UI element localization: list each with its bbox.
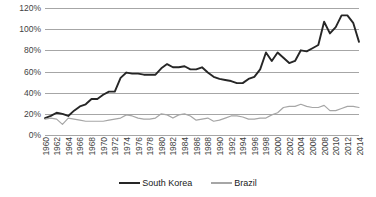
x-tick-label: 2008: [321, 137, 330, 156]
legend-label: South Korea: [142, 178, 192, 188]
x-tick-label: 2004: [297, 137, 306, 156]
legend-line-icon: [211, 182, 232, 184]
x-tick-label: 1960: [42, 137, 51, 156]
y-tick-label: 0%: [0, 131, 41, 140]
y-tick-label: 120%: [0, 4, 41, 13]
x-tick-label: 2014: [356, 137, 365, 156]
x-tick-label: 1976: [135, 137, 144, 156]
x-tick-label: 1992: [228, 137, 237, 156]
legend-label: Brazil: [234, 178, 257, 188]
x-tick-label: 1974: [123, 137, 132, 156]
x-tick-label: 1980: [158, 137, 167, 156]
series-line-brazil: [45, 104, 359, 124]
y-tick-label: 60%: [0, 67, 41, 76]
x-tick-label: 1972: [111, 137, 120, 156]
x-tick-label: 1998: [262, 137, 271, 156]
x-tick-label: 1964: [65, 137, 74, 156]
legend-item-south-korea[interactable]: South Korea: [119, 178, 192, 188]
series-line-south-korea: [45, 15, 359, 118]
x-tick-label: 1986: [193, 137, 202, 156]
x-tick-label: 1982: [169, 137, 178, 156]
series-layer: [45, 8, 359, 135]
x-tick-label: 2000: [274, 137, 283, 156]
x-tick-label: 1996: [251, 137, 260, 156]
legend-line-icon: [119, 182, 140, 184]
x-tick-label: 1962: [53, 137, 62, 156]
x-tick-label: 1968: [88, 137, 97, 156]
x-tick-label: 2006: [309, 137, 318, 156]
x-tick-label: 2010: [332, 137, 341, 156]
y-tick-label: 40%: [0, 88, 41, 97]
x-tick-label: 1994: [239, 137, 248, 156]
y-tick-label: 80%: [0, 46, 41, 55]
legend-item-brazil[interactable]: Brazil: [211, 178, 257, 188]
x-tick-label: 1988: [204, 137, 213, 156]
x-axis: 1960196219641966196819701972197419761978…: [45, 137, 359, 171]
x-tick-label: 2012: [344, 137, 353, 156]
x-tick-label: 1990: [216, 137, 225, 156]
x-tick-label: 1984: [181, 137, 190, 156]
x-tick-label: 2002: [286, 137, 295, 156]
chart-legend: South KoreaBrazil: [0, 176, 376, 190]
y-tick-label: 100%: [0, 25, 41, 34]
y-axis: 120%100%80%60%40%20%0%: [0, 8, 41, 135]
y-tick-label: 20%: [0, 109, 41, 118]
x-tick-label: 1978: [146, 137, 155, 156]
x-tick-label: 1966: [76, 137, 85, 156]
x-tick-label: 1970: [100, 137, 109, 156]
line-chart: 120%100%80%60%40%20%0% 19601962196419661…: [0, 0, 376, 197]
plot-area: [45, 8, 359, 135]
